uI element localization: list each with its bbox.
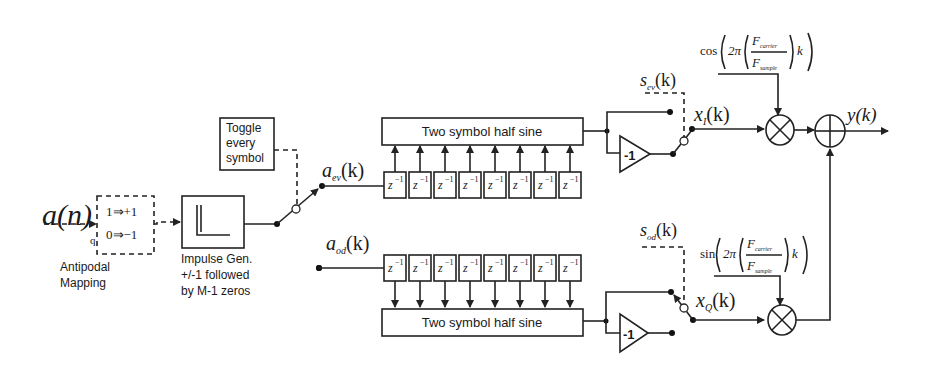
even-delay-line: z−1 z−1 z−1 z−1 z−1 z−1 z−1 z−1	[384, 172, 581, 198]
svg-text:k: k	[797, 43, 803, 58]
impulse-caption-3: by M-1 zeros	[181, 284, 250, 298]
delay-cell: z	[387, 178, 393, 192]
impulse-caption-1: Impulse Gen.	[181, 252, 252, 266]
output-label: y(k)	[845, 104, 877, 126]
tap-label: q	[90, 234, 96, 246]
delay-cell: z	[437, 261, 443, 275]
delay-cell: z	[462, 261, 468, 275]
svg-text:−1: −1	[570, 258, 579, 267]
svg-text:2π: 2π	[728, 43, 742, 58]
svg-text:−1: −1	[495, 258, 504, 267]
offset-qpsk-modulator-diagram: a(n) q 1⇒+1 0⇒−1 Antipodal Mapping Impul…	[0, 0, 926, 373]
summer: y(k)	[815, 104, 888, 294]
delay-cell: z	[437, 178, 443, 192]
delay-cell: z	[412, 178, 418, 192]
aev-arg: (k)	[341, 159, 364, 182]
input-label: a(n)	[42, 198, 92, 232]
aod-label: a	[326, 232, 336, 254]
odd-inverter-label: -1	[623, 327, 635, 342]
svg-text:−1: −1	[470, 175, 479, 184]
svg-text:carrier: carrier	[755, 246, 773, 252]
odd-filter-label: Two symbol half sine	[422, 315, 543, 330]
delay-cell: z	[412, 261, 418, 275]
svg-text:−1: −1	[495, 175, 504, 184]
even-inverter-label: -1	[624, 148, 636, 163]
odd-delay-line: z−1 z−1 z−1 z−1 z−1 z−1 z−1 z−1	[384, 255, 581, 281]
input-signal: a(n) q	[42, 198, 96, 246]
svg-text:−1: −1	[445, 175, 454, 184]
delay-cell: z	[512, 178, 518, 192]
svg-text:−1: −1	[420, 258, 429, 267]
svg-text:carrier: carrier	[760, 43, 778, 49]
svg-text:−1: −1	[395, 175, 404, 184]
sev-label: s	[640, 70, 647, 90]
svg-text:xI(k): xI(k)	[693, 103, 730, 127]
switch-pivot-icon	[292, 205, 300, 213]
toggle-text-3: symbol	[226, 151, 264, 165]
impulse-caption-2: +/-1 followed	[181, 268, 249, 282]
svg-text:−1: −1	[395, 258, 404, 267]
impulse-generator-block: Impulse Gen. +/-1 followed by M-1 zeros	[181, 196, 252, 298]
mixer-i	[766, 115, 814, 145]
svg-text:−1: −1	[420, 175, 429, 184]
aev-label: a	[322, 159, 332, 181]
antipodal-caption-2: Mapping	[60, 276, 106, 290]
cos-func: cos	[700, 43, 717, 58]
odd-branch: aod(k) z−1 z−1 z−1 z−1 z−1 z−1 z−1 z−1 T…	[316, 220, 764, 352]
svg-text:−1: −1	[570, 175, 579, 184]
toggle-text-2: every	[226, 136, 255, 150]
delay-cell: z	[462, 178, 468, 192]
delay-cell: z	[512, 261, 518, 275]
svg-text:−1: −1	[545, 258, 554, 267]
antipodal-caption-1: Antipodal	[60, 260, 110, 274]
delay-cell: z	[562, 261, 568, 275]
svg-text:−1: −1	[520, 175, 529, 184]
delay-cell: z	[537, 178, 543, 192]
svg-text:sample: sample	[755, 268, 772, 274]
map-rule-1: 1⇒+1	[106, 204, 137, 219]
even-filter-label: Two symbol half sine	[422, 124, 543, 139]
svg-text:sample: sample	[760, 65, 777, 71]
svg-text:−1: −1	[445, 258, 454, 267]
svg-text:aev(k): aev(k)	[322, 159, 364, 183]
svg-text:−1: −1	[470, 258, 479, 267]
svg-text:xQ(k): xQ(k)	[695, 289, 735, 313]
svg-text:aod(k): aod(k)	[326, 232, 369, 256]
delay-cell: z	[487, 261, 493, 275]
svg-text:−1: −1	[545, 175, 554, 184]
even-branch: aev(k) z−1 z−1 z−1 z−1 z−1 z−1 z−1 z−1 T…	[322, 70, 764, 198]
svg-text:sev(k): sev(k)	[640, 70, 676, 92]
svg-text:k: k	[792, 246, 798, 261]
mixer-q	[768, 294, 830, 335]
delay-cell: z	[537, 261, 543, 275]
delay-cell: z	[487, 178, 493, 192]
svg-text:2π: 2π	[723, 246, 737, 261]
sin-func: sin	[700, 246, 716, 261]
map-rule-0: 0⇒−1	[106, 227, 137, 242]
sod-label: s	[640, 220, 647, 240]
delay-cell: z	[387, 261, 393, 275]
xq-label: x	[695, 289, 705, 311]
delay-cell: z	[562, 178, 568, 192]
xi-label: x	[693, 103, 703, 125]
toggle-text-1: Toggle	[226, 121, 262, 135]
svg-text:−1: −1	[520, 258, 529, 267]
svg-text:sod(k): sod(k)	[640, 220, 677, 242]
